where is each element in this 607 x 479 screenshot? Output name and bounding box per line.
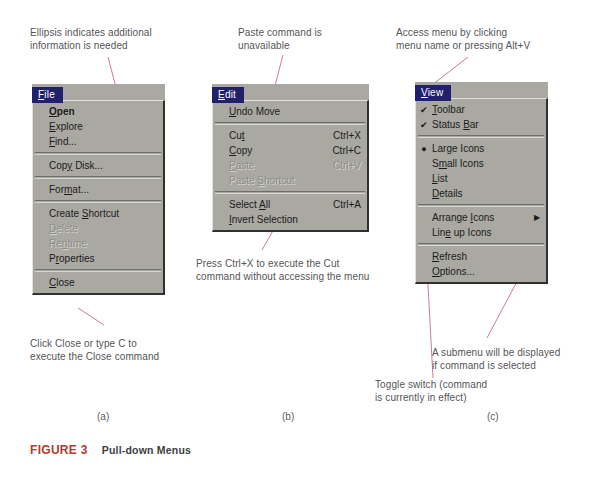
menu-item-line-up-icons[interactable]: Line up Icons <box>416 225 546 240</box>
menu-item-copy[interactable]: CopyCtrl+C <box>213 143 367 158</box>
menu-separator <box>418 135 544 138</box>
menu-item-arrange-icons[interactable]: Arrange Icons▶ <box>416 210 546 225</box>
menu-separator <box>215 191 365 194</box>
leader-access <box>432 57 468 85</box>
menu-item-invert-selection[interactable]: Invert Selection <box>213 212 367 227</box>
check-icon: ✔ <box>416 119 432 131</box>
menu-item-properties[interactable]: Properties <box>33 251 163 266</box>
menu-item-toolbar[interactable]: ✔Toolbar <box>416 102 546 117</box>
menu-item-label: Cut <box>229 130 317 142</box>
menu-item-rename: Rename <box>33 236 163 251</box>
menu-item-accelerator: Ctrl+A <box>317 199 361 211</box>
annotation-paste: Paste command is unavailable <box>238 26 398 52</box>
menu-item-label: Close <box>49 277 157 289</box>
menu-item-open[interactable]: Open <box>33 104 163 119</box>
check-icon: ✔ <box>416 104 432 116</box>
menu-item-label: Copy Disk... <box>49 160 157 172</box>
menu-view[interactable]: View ✔Toolbar✔Status Bar●Large IconsSmal… <box>415 82 548 284</box>
menu-item-delete: Delete <box>33 221 163 236</box>
file-menu-title[interactable]: File <box>32 87 63 103</box>
menu-separator <box>418 204 544 207</box>
figure-title: Pull-down Menus <box>102 444 191 456</box>
annotation-submenu: A submenu will be displayed if command i… <box>432 346 607 372</box>
part-label-c: (c) <box>487 411 499 422</box>
submenu-arrow-icon: ▶ <box>524 212 540 224</box>
view-menu-title[interactable]: View <box>415 85 451 101</box>
file-menubar-strip: File <box>32 84 165 100</box>
menu-item-accelerator: Ctrl+C <box>316 145 361 157</box>
menu-item-label: Large Icons <box>432 143 540 155</box>
edit-menubar-strip: Edit <box>212 84 369 100</box>
menu-item-label: Small Icons <box>432 158 540 170</box>
menu-item-label: Properties <box>49 253 157 265</box>
menu-item-label: List <box>432 173 540 185</box>
menu-item-label: Open <box>49 106 157 118</box>
menu-item-close[interactable]: Close <box>33 275 163 290</box>
radio-bullet-icon: ● <box>416 143 432 155</box>
menu-item-small-icons[interactable]: Small Icons <box>416 156 546 171</box>
menu-item-paste: PasteCtrl+V <box>213 158 367 173</box>
menu-item-label: Rename <box>49 238 157 250</box>
menu-item-label: Find... <box>49 136 157 148</box>
menu-item-label: Line up Icons <box>432 227 540 239</box>
figure-caption: FIGURE 3 Pull-down Menus <box>30 443 191 457</box>
menu-item-label: Create Shortcut <box>49 208 157 220</box>
menu-item-label: Select All <box>229 199 317 211</box>
menu-item-explore[interactable]: Explore <box>33 119 163 134</box>
menu-separator <box>215 122 365 125</box>
menu-item-label: Delete <box>49 223 157 235</box>
menu-item-paste-shortcut: Paste Shortcut <box>213 173 367 188</box>
menu-item-label: Status Bar <box>432 119 540 131</box>
annotation-ellipsis: Ellipsis indicates additional informatio… <box>30 26 210 52</box>
menu-item-status-bar[interactable]: ✔Status Bar <box>416 117 546 132</box>
menu-item-label: Options... <box>432 266 540 278</box>
annotation-access: Access menu by clicking menu name or pre… <box>396 26 606 52</box>
menu-item-refresh[interactable]: Refresh <box>416 249 546 264</box>
file-menu-panel[interactable]: OpenExploreFind...Copy Disk...Format...C… <box>32 100 165 295</box>
menu-item-options[interactable]: Options... <box>416 264 546 279</box>
annotation-ctrlx: Press Ctrl+X to execute the Cut command … <box>196 257 416 283</box>
leader-close <box>78 308 104 325</box>
menu-item-label: Details <box>432 188 540 200</box>
menu-item-label: Undo Move <box>229 106 361 118</box>
menu-item-details[interactable]: Details <box>416 186 546 201</box>
figure-number: FIGURE 3 <box>30 443 88 457</box>
menu-item-label: Refresh <box>432 251 540 263</box>
menu-separator <box>35 152 161 155</box>
annotation-close: Click Close or type C to execute the Clo… <box>30 337 230 363</box>
menu-separator <box>418 243 544 246</box>
menu-item-create-shortcut[interactable]: Create Shortcut <box>33 206 163 221</box>
part-label-a: (a) <box>97 411 109 422</box>
menu-separator <box>35 269 161 272</box>
menu-item-copy-disk[interactable]: Copy Disk... <box>33 158 163 173</box>
edit-menu-panel[interactable]: Undo MoveCutCtrl+XCopyCtrl+CPasteCtrl+VP… <box>212 100 369 232</box>
menu-item-label: Invert Selection <box>229 214 361 226</box>
annotation-toggle: Toggle switch (command is currently in e… <box>375 378 555 404</box>
view-menu-panel[interactable]: ✔Toolbar✔Status Bar●Large IconsSmall Ico… <box>415 98 548 284</box>
menu-edit[interactable]: Edit Undo MoveCutCtrl+XCopyCtrl+CPasteCt… <box>212 84 369 232</box>
menu-item-label: Arrange Icons <box>432 212 524 224</box>
menu-item-label: Format... <box>49 184 157 196</box>
menu-item-list[interactable]: List <box>416 171 546 186</box>
part-label-b: (b) <box>282 411 294 422</box>
menu-item-accelerator: Ctrl+V <box>317 160 361 172</box>
menu-item-label: Toolbar <box>432 104 540 116</box>
menu-item-label: Explore <box>49 121 157 133</box>
menu-separator <box>35 176 161 179</box>
menu-file[interactable]: File OpenExploreFind...Copy Disk...Forma… <box>32 84 165 295</box>
menu-item-accelerator: Ctrl+X <box>317 130 361 142</box>
menu-item-undo-move[interactable]: Undo Move <box>213 104 367 119</box>
menu-item-cut[interactable]: CutCtrl+X <box>213 128 367 143</box>
menu-item-find[interactable]: Find... <box>33 134 163 149</box>
menu-item-label: Paste Shortcut <box>229 175 361 187</box>
menu-item-format[interactable]: Format... <box>33 182 163 197</box>
menu-item-label: Paste <box>229 160 317 172</box>
menu-item-large-icons[interactable]: ●Large Icons <box>416 141 546 156</box>
menu-item-label: Copy <box>229 145 316 157</box>
view-menubar-strip: View <box>415 82 548 98</box>
menu-item-select-all[interactable]: Select AllCtrl+A <box>213 197 367 212</box>
edit-menu-title[interactable]: Edit <box>212 87 244 103</box>
menu-separator <box>35 200 161 203</box>
